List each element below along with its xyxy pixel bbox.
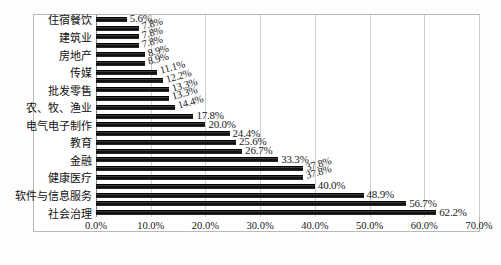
category-label: 电气电子制作 [26, 117, 92, 133]
bar-value-label: 56.7% [409, 197, 436, 209]
x-tick-label: 30.0% [247, 220, 274, 231]
x-tick-label: 60.0% [411, 220, 438, 231]
bar-row [96, 157, 278, 162]
bar [96, 140, 236, 145]
bar [96, 122, 205, 127]
bar [96, 17, 127, 22]
plot-area: 5.6%7.8%7.8%7.8%8.9%8.9%11.1%12.2%13.3%1… [96, 15, 479, 217]
bar-row [96, 96, 169, 101]
bar [96, 184, 315, 189]
bar-value-label: 48.9% [367, 188, 394, 200]
bar [96, 70, 157, 75]
bar [96, 157, 278, 162]
bar [96, 131, 230, 136]
x-tick-label: 70.0% [465, 220, 492, 231]
bar [96, 114, 193, 119]
bar-value-label: 40.0% [318, 179, 345, 191]
bar-row [96, 26, 139, 31]
bar-row [96, 122, 205, 127]
bar-row [96, 114, 193, 119]
bar [96, 96, 169, 101]
bar-value-label: 62.2% [439, 206, 466, 218]
category-label: 软件与信息服务 [15, 187, 92, 203]
category-axis: 住宿餐饮建筑业房地产传媒批发零售农、牧、渔业电气电子制作教育金融健康医疗软件与信… [0, 15, 96, 217]
category-label: 金融 [70, 152, 92, 168]
category-label: 教育 [70, 134, 92, 150]
bar-row [96, 43, 139, 48]
x-tick-label: 40.0% [301, 220, 328, 231]
x-axis-tick-labels: 0.0%10.0%20.0%30.0%40.0%50.0%60.0%70.0% [96, 220, 479, 240]
bar [96, 26, 139, 31]
category-label: 社会治理 [48, 205, 92, 221]
bar-row [96, 166, 303, 171]
x-tick-label: 0.0% [85, 220, 107, 231]
bar-row [96, 17, 127, 22]
category-label: 传媒 [70, 64, 92, 80]
bar-row [96, 210, 436, 215]
bar-row [96, 131, 230, 136]
bar [96, 166, 303, 171]
gridline [479, 15, 480, 217]
bar-row [96, 34, 139, 39]
bar-row [96, 78, 163, 83]
bar [96, 210, 436, 215]
bar-row [96, 52, 145, 57]
bar [96, 193, 364, 198]
bar [96, 78, 163, 83]
bar-row [96, 87, 169, 92]
bar-series: 5.6%7.8%7.8%7.8%8.9%8.9%11.1%12.2%13.3%1… [96, 15, 479, 217]
bar [96, 175, 303, 180]
bar [96, 43, 139, 48]
bar [96, 34, 139, 39]
bar-row [96, 175, 303, 180]
bar [96, 87, 169, 92]
bar-value-label: 26.7% [245, 144, 272, 156]
bar-row [96, 184, 315, 189]
bar-row [96, 70, 157, 75]
category-label: 住宿餐饮 [48, 11, 92, 27]
x-tick-label: 50.0% [356, 220, 383, 231]
bar-row [96, 61, 145, 66]
category-label: 农、牧、渔业 [26, 99, 92, 115]
bar [96, 149, 242, 154]
bar-row [96, 105, 175, 110]
bar [96, 201, 406, 206]
chart-page: 住宿餐饮建筑业房地产传媒批发零售农、牧、渔业电气电子制作教育金融健康医疗软件与信… [0, 0, 501, 265]
bar [96, 52, 145, 57]
bar-row [96, 140, 236, 145]
bar-row [96, 201, 406, 206]
category-label: 健康医疗 [48, 169, 92, 185]
bar-row [96, 193, 364, 198]
x-tick-label: 20.0% [192, 220, 219, 231]
bar [96, 105, 175, 110]
category-label: 批发零售 [48, 82, 92, 98]
category-label: 建筑业 [59, 29, 92, 45]
category-label: 房地产 [59, 47, 92, 63]
bar [96, 61, 145, 66]
bar-row [96, 149, 242, 154]
x-tick-label: 10.0% [137, 220, 164, 231]
